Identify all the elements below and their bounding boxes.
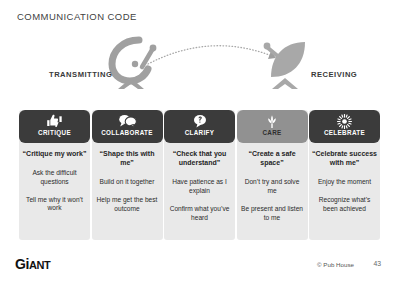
- card-celebrate[interactable]: CELEBRATE “Celebrate success with me” En…: [309, 110, 380, 240]
- card-line: Tell me why it won’t work: [22, 196, 87, 213]
- question-bubble-icon: [193, 113, 207, 129]
- card-header-care: CARE: [237, 110, 308, 143]
- card-header-collaborate: COLLABORATE: [92, 110, 163, 143]
- card-line: Don’t try and solve me: [240, 178, 305, 195]
- card-header-critique: CRITIQUE: [19, 110, 90, 143]
- transmitting-label: TRANSMITTING: [49, 70, 112, 79]
- dotted-signal-arc-arrow: [0, 26, 398, 98]
- communication-code-cards: CRITIQUE “Critique my work” Ask the diff…: [19, 110, 379, 240]
- card-body-care: “Create a safe space” Don’t try and solv…: [237, 143, 308, 240]
- giant-logo-lower: ANT: [29, 259, 50, 271]
- thumbs-up-down-icon: [46, 113, 63, 129]
- giant-logo: GiANT: [15, 256, 50, 272]
- card-body-celebrate: “Celebrate success with me” Enjoy the mo…: [309, 143, 380, 240]
- satellite-dish-receiving-icon: [258, 34, 314, 94]
- card-line: Have patience as I explain: [167, 178, 232, 195]
- card-body-clarify: “Check that you understand” Have patienc…: [164, 143, 235, 240]
- page-number: 43: [373, 260, 381, 267]
- card-header-clarify: CLARIFY: [164, 110, 235, 143]
- slide-footer: GiANT © Pub House 43: [0, 252, 398, 284]
- card-body-collaborate: “Shape this with me” Build on it togethe…: [92, 143, 163, 240]
- card-line: Ask the difficult questions: [22, 169, 87, 186]
- sprout-plant-icon: [265, 113, 279, 129]
- receiving-label: RECEIVING: [311, 70, 357, 79]
- card-title-care: CARE: [262, 130, 281, 136]
- card-quote: “Check that you understand”: [167, 149, 232, 167]
- card-line: Help me get the best outcome: [95, 196, 160, 213]
- card-care[interactable]: CARE “Create a safe space” Don’t try and…: [237, 110, 308, 240]
- card-line: Be present and listen to me: [240, 205, 305, 222]
- card-title-critique: CRITIQUE: [38, 130, 71, 136]
- card-collaborate[interactable]: COLLABORATE “Shape this with me” Build o…: [92, 110, 163, 240]
- card-line: Enjoy the moment: [312, 178, 377, 187]
- card-quote: “Shape this with me”: [95, 149, 160, 167]
- card-clarify[interactable]: CLARIFY “Check that you understand” Have…: [164, 110, 235, 240]
- transmission-diagram: TRANSMITTING RECEIVING: [0, 26, 398, 98]
- card-critique[interactable]: CRITIQUE “Critique my work” Ask the diff…: [19, 110, 90, 240]
- giant-logo-upper: Gi: [15, 256, 29, 272]
- copyright-notice: © Pub House: [317, 261, 354, 268]
- card-title-collaborate: COLLABORATE: [101, 130, 153, 136]
- card-line: Build on it together: [95, 178, 160, 187]
- page-title: COMMUNICATION CODE: [17, 11, 137, 22]
- card-header-celebrate: CELEBRATE: [309, 110, 380, 143]
- card-quote: “Critique my work”: [22, 149, 87, 158]
- card-title-celebrate: CELEBRATE: [324, 130, 365, 136]
- card-quote: “Celebrate success with me”: [312, 149, 377, 167]
- card-title-clarify: CLARIFY: [185, 130, 215, 136]
- card-line: Confirm what you’ve heard: [167, 205, 232, 222]
- starburst-icon: [337, 113, 352, 129]
- card-body-critique: “Critique my work” Ask the difficult que…: [19, 143, 90, 240]
- card-quote: “Create a safe space”: [240, 149, 305, 167]
- satellite-dish-transmitting-icon: [108, 34, 160, 94]
- card-line: Recognize what’s been achieved: [312, 196, 377, 213]
- speech-bubbles-icon: [118, 113, 137, 129]
